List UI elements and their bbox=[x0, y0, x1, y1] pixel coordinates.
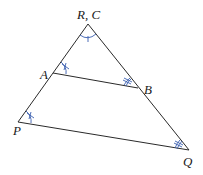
apex-angle-mark bbox=[80, 34, 96, 42]
label-apex: R, C bbox=[76, 7, 100, 22]
label-q: Q bbox=[183, 154, 193, 169]
segment-pq bbox=[18, 122, 189, 150]
segment-ab bbox=[53, 73, 138, 88]
triangle-diagram: R, C A B P Q bbox=[0, 0, 203, 175]
label-b: B bbox=[144, 82, 152, 97]
side-apex-q bbox=[88, 24, 189, 150]
angle-a-mark bbox=[61, 62, 69, 74]
label-a: A bbox=[39, 67, 48, 82]
angle-p-mark bbox=[26, 111, 34, 123]
angle-b-mark bbox=[123, 78, 132, 86]
label-p: P bbox=[12, 123, 21, 138]
angle-q-mark bbox=[174, 140, 183, 149]
